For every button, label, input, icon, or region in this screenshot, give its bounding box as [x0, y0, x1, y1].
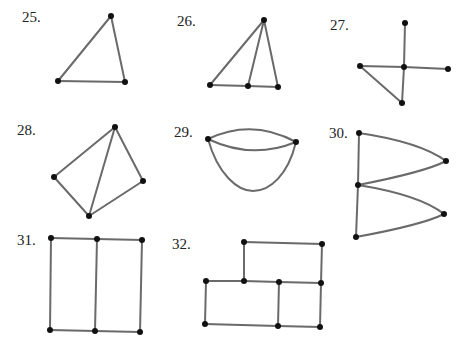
graph-edge — [278, 282, 279, 326]
graph-vertex — [241, 278, 247, 284]
graph-figure-30 — [353, 130, 449, 240]
graph-vertex — [402, 20, 408, 26]
graph-vertex — [355, 182, 361, 188]
graph-edge — [320, 283, 321, 327]
graph-vertex — [317, 324, 323, 330]
graph-edge — [360, 66, 404, 67]
graph-vertex — [357, 63, 363, 69]
graph-curved-edge — [208, 129, 296, 142]
graph-vertex — [319, 241, 325, 247]
graph-edge — [360, 66, 402, 103]
graph-edge — [54, 177, 89, 216]
graph-edge — [140, 240, 142, 332]
graph-vertex — [140, 178, 146, 184]
graph-drawings — [0, 0, 460, 349]
graph-edge — [402, 67, 404, 103]
graph-edge — [50, 238, 51, 330]
graph-curved-edge — [358, 185, 444, 214]
graph-vertex — [245, 83, 251, 89]
graph-figure-25 — [55, 13, 128, 85]
graph-edge — [278, 326, 320, 327]
graph-edge — [115, 127, 143, 181]
graph-vertex — [55, 78, 61, 84]
graph-edge — [58, 81, 125, 82]
graph-edge — [210, 85, 248, 86]
graph-edge — [205, 324, 278, 326]
graph-edge — [111, 16, 125, 82]
graph-vertex — [139, 237, 145, 243]
graph-vertex — [48, 235, 54, 241]
graph-vertex — [122, 79, 128, 85]
graph-vertex — [207, 82, 213, 88]
graph-vertex — [202, 321, 208, 327]
graph-vertex — [241, 239, 247, 245]
graph-curved-edge — [208, 139, 296, 150]
graph-edge — [205, 281, 206, 324]
graph-vertex — [275, 323, 281, 329]
graph-vertex — [445, 66, 451, 72]
graph-vertex — [441, 211, 447, 217]
graph-vertex — [94, 236, 100, 242]
graph-vertex — [203, 278, 209, 284]
graph-vertex — [92, 328, 98, 334]
graph-vertex — [108, 13, 114, 19]
graph-edge — [97, 239, 142, 240]
graph-vertex — [112, 124, 118, 130]
graph-vertex — [399, 100, 405, 106]
graph-edge — [404, 23, 405, 67]
graph-edge — [54, 127, 115, 177]
graph-figure-27 — [357, 20, 451, 106]
graph-edge — [95, 331, 140, 332]
graph-edge — [58, 16, 111, 81]
graph-edge — [279, 282, 321, 283]
graph-curved-edge — [358, 161, 446, 185]
graph-edge — [321, 244, 322, 283]
graph-edge — [264, 20, 278, 87]
graph-curved-edge — [359, 133, 446, 161]
graph-vertex — [318, 280, 324, 286]
graph-figure-29 — [205, 129, 299, 191]
graph-edge — [51, 238, 97, 239]
graph-vertex — [443, 158, 449, 164]
graph-vertex — [137, 329, 143, 335]
graph-vertex — [353, 234, 359, 240]
graph-edge — [356, 185, 358, 237]
graph-figure-28 — [51, 124, 146, 219]
graph-vertex — [47, 327, 53, 333]
graph-vertex — [401, 64, 407, 70]
graph-edge — [248, 86, 278, 87]
graph-edge — [95, 239, 97, 331]
graph-figure-31 — [47, 235, 145, 335]
graph-figure-32 — [202, 239, 325, 330]
graph-edge — [358, 133, 359, 185]
graph-curved-edge — [356, 214, 444, 237]
graph-vertex — [51, 174, 57, 180]
graph-edge — [404, 67, 448, 69]
graph-vertex — [86, 213, 92, 219]
graph-vertex — [356, 130, 362, 136]
graph-vertex — [261, 17, 267, 23]
graph-vertex — [276, 279, 282, 285]
graph-edge — [244, 281, 279, 282]
graph-figure-26 — [207, 17, 281, 90]
graph-vertex — [275, 84, 281, 90]
graph-edge — [244, 242, 322, 244]
graph-vertex — [293, 139, 299, 145]
graph-edge — [50, 330, 95, 331]
graph-vertex — [205, 136, 211, 142]
